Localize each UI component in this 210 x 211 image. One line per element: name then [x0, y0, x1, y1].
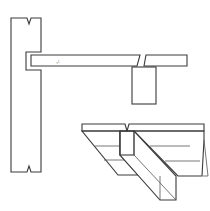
beam-section — [132, 67, 156, 104]
slab-section-right — [144, 55, 187, 66]
aggregate-mark: ·⁄· — [56, 59, 61, 65]
slab-section-left: ·⁄· — [31, 55, 140, 66]
wall-section — [11, 18, 41, 172]
isometric-slab-beam — [82, 124, 208, 200]
drawing-canvas: ·⁄· — [0, 0, 210, 211]
